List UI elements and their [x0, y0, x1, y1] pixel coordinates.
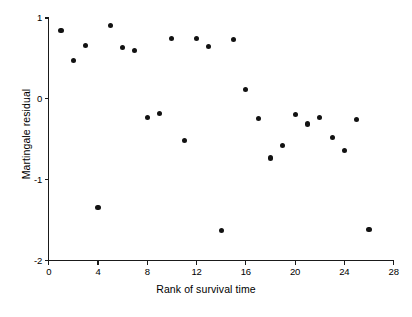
data-point [268, 155, 273, 160]
x-tick-label: 28 [381, 267, 407, 277]
x-tick-label: 24 [331, 267, 357, 277]
x-tick-label: 16 [233, 267, 259, 277]
x-tick-mark [147, 261, 148, 265]
x-tick-label: 8 [134, 267, 160, 277]
plot-data-area [49, 18, 394, 261]
x-tick-mark [97, 261, 98, 265]
x-tick-label: 20 [282, 267, 308, 277]
x-tick-mark [48, 261, 49, 265]
scatter-plot-figure: 10-1-2 0481216202428 Rank of survival ti… [0, 0, 412, 317]
data-point [108, 23, 113, 28]
data-point [120, 45, 125, 50]
x-tick-label: 0 [36, 267, 62, 277]
x-tick-mark [245, 261, 246, 265]
data-point [330, 135, 335, 140]
x-tick-mark [196, 261, 197, 265]
y-tick-label: -2 [14, 256, 42, 266]
x-axis-title: Rank of survival time [0, 283, 412, 295]
x-tick-label: 12 [184, 267, 210, 277]
x-tick-mark [344, 261, 345, 265]
y-axis-title: Martingale residual [20, 54, 32, 214]
data-point [182, 138, 187, 143]
data-point [305, 121, 310, 126]
y-tick-label: 1 [14, 13, 42, 23]
data-point [145, 115, 150, 120]
data-point [354, 117, 359, 122]
x-tick-mark [295, 261, 296, 265]
x-tick-label: 4 [85, 267, 111, 277]
data-point [194, 36, 199, 41]
data-point [366, 227, 371, 232]
data-point [293, 112, 298, 117]
data-point [95, 205, 100, 210]
data-point [71, 58, 76, 63]
x-tick-mark [393, 261, 394, 265]
data-point [256, 116, 261, 121]
